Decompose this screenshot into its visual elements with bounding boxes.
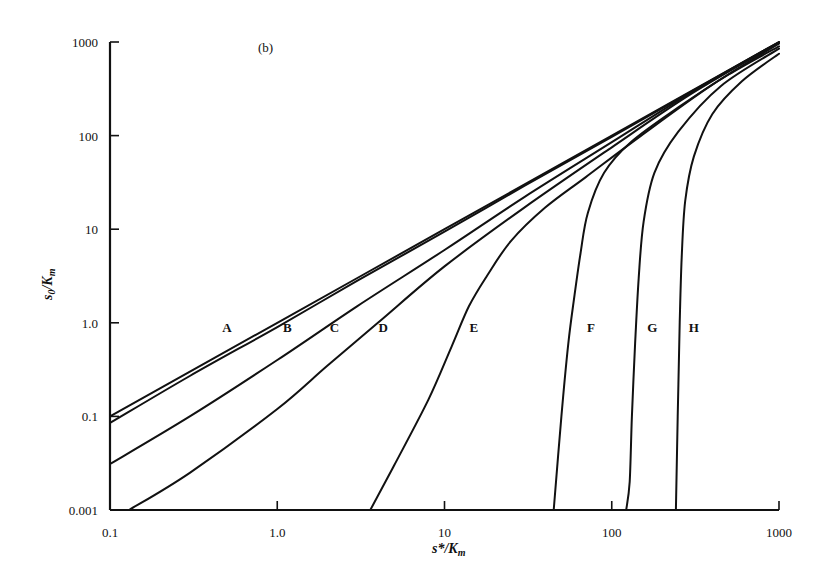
curve-group bbox=[110, 42, 779, 510]
curve-label-g: G bbox=[647, 320, 657, 335]
chart-figure: 0.11.0101001000 0.0010.11.0101001000 ABC… bbox=[0, 0, 835, 582]
curve-label-f: F bbox=[587, 320, 595, 335]
y-tick-label: 10 bbox=[85, 222, 98, 237]
curve-label-a: A bbox=[222, 320, 232, 335]
x-axis-title: s*/Km bbox=[431, 541, 466, 558]
x-tick-label: 100 bbox=[602, 525, 622, 540]
y-tick-label: 1000 bbox=[72, 35, 98, 50]
panel-label: (b) bbox=[258, 40, 273, 55]
curve-f bbox=[554, 46, 779, 510]
x-ticks: 0.11.0101001000 bbox=[102, 501, 792, 540]
curve-h bbox=[676, 54, 779, 510]
y-tick-label: 0.1 bbox=[82, 409, 98, 424]
curve-label-h: H bbox=[689, 320, 699, 335]
y-ticks: 0.0010.11.0101001000 bbox=[69, 35, 119, 518]
y-tick-label: 0.001 bbox=[69, 503, 98, 518]
axes-group bbox=[110, 42, 779, 510]
x-tick-label: 0.1 bbox=[102, 525, 118, 540]
curve-label-c: C bbox=[330, 320, 339, 335]
y-tick-label: 100 bbox=[79, 129, 99, 144]
y-axis-title: s0/Km bbox=[40, 268, 57, 301]
curve-label-b: B bbox=[283, 320, 292, 335]
curve-label-e: E bbox=[470, 320, 479, 335]
x-tick-label: 1.0 bbox=[269, 525, 285, 540]
y-tick-label: 1.0 bbox=[82, 316, 98, 331]
curve-label-d: D bbox=[379, 320, 388, 335]
x-tick-label: 1000 bbox=[766, 525, 792, 540]
x-tick-label: 10 bbox=[438, 525, 451, 540]
